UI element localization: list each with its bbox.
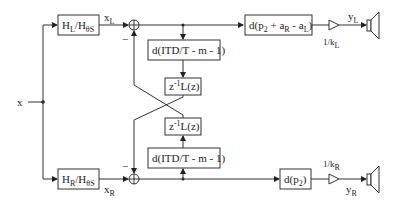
input-to-right-filter-wire [43, 102, 57, 179]
yL-label: yL [348, 10, 359, 25]
left-output-delay-block: d(p2 + aR - aL) [245, 15, 313, 35]
bottom-shelf-filter-block: z-1L(z) [165, 118, 201, 135]
right-speaker-icon [367, 166, 379, 193]
top-summer [129, 20, 139, 30]
crosstalk-canceller-diagram: x HL/HθS HR/HθS xL xR − − [0, 0, 400, 205]
top-itd-delay-block: d(ITD/T - m - 1) [148, 40, 225, 60]
xR-label: xR [104, 183, 116, 198]
input-label: x [17, 96, 23, 108]
left-speaker-icon [367, 12, 379, 39]
svg-text:d(ITD/T - m - 1): d(ITD/T - m - 1) [152, 152, 225, 165]
top-shelf-filter-block: z-1L(z) [165, 78, 201, 95]
left-filter-block: HL/HθS [58, 15, 99, 35]
left-gain-label: 1/kL [323, 37, 340, 50]
left-gain-amplifier-icon [329, 20, 339, 30]
svg-text:d(ITD/T - m - 1): d(ITD/T - m - 1) [152, 44, 225, 57]
yR-label: yR [346, 183, 358, 198]
top-minus-sign: − [122, 33, 128, 45]
bottom-summer [129, 174, 139, 184]
bottom-itd-delay-block: d(ITD/T - m - 1) [148, 148, 225, 168]
right-gain-label: 1/kR [323, 159, 341, 172]
svg-text:z-1L(z): z-1L(z) [169, 79, 200, 93]
right-gain-amplifier-icon [329, 174, 339, 184]
xL-label: xL [104, 11, 115, 26]
svg-text:z-1L(z): z-1L(z) [169, 119, 200, 133]
bottom-minus-sign: − [122, 160, 128, 172]
input-to-left-filter-wire [43, 25, 57, 102]
right-filter-block: HR/HθS [58, 169, 99, 189]
right-output-delay-block: d(p2) [280, 169, 311, 189]
